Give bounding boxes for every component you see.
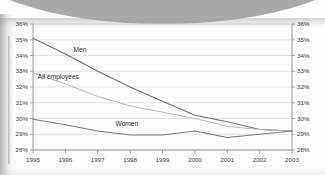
y-tick-label-right: 28% bbox=[297, 146, 310, 153]
y-tick-label-left: 33% bbox=[16, 67, 29, 74]
y-tick-label-left: 29% bbox=[16, 130, 29, 137]
y-tick-label-right: 36% bbox=[297, 20, 310, 27]
x-tick-label: 2001 bbox=[220, 156, 234, 163]
y-tick-label-right: 31% bbox=[297, 99, 310, 106]
y-axis-labels-right: 36%35%34%33%32%31%30%29%28% bbox=[297, 20, 310, 153]
x-tick-label: 2000 bbox=[188, 156, 202, 163]
chart-figure: 36%35%34%33%32%31%30%29%28% 36%35%34%33%… bbox=[0, 0, 325, 175]
gridlines-group bbox=[33, 24, 292, 150]
x-tick-label: 1995 bbox=[26, 156, 40, 163]
plot-area: 36%35%34%33%32%31%30%29%28% 36%35%34%33%… bbox=[0, 0, 325, 175]
series-line-men bbox=[33, 38, 292, 131]
series-lines-group bbox=[33, 38, 292, 137]
line-chart-svg: 36%35%34%33%32%31%30%29%28% 36%35%34%33%… bbox=[0, 0, 325, 175]
annotation-women: Women bbox=[116, 120, 139, 127]
series-annotations: MenAll employeesWomen bbox=[38, 46, 139, 127]
y-tick-label-right: 33% bbox=[297, 67, 310, 74]
y-tick-label-right: 29% bbox=[297, 130, 310, 137]
y-tick-label-right: 30% bbox=[297, 115, 310, 122]
y-tick-label-left: 36% bbox=[16, 20, 29, 27]
annotation-men: Men bbox=[73, 46, 86, 53]
y-tick-label-left: 35% bbox=[16, 36, 29, 43]
y-tick-label-left: 31% bbox=[16, 99, 29, 106]
x-tick-label: 1999 bbox=[156, 156, 170, 163]
x-tick-label: 1997 bbox=[91, 156, 105, 163]
y-axis-labels-left: 36%35%34%33%32%31%30%29%28% bbox=[16, 20, 29, 153]
y-tick-label-right: 35% bbox=[297, 36, 310, 43]
y-tick-label-left: 28% bbox=[16, 146, 29, 153]
x-tick-label: 1998 bbox=[123, 156, 137, 163]
x-tick-label: 1996 bbox=[58, 156, 72, 163]
y-tick-label-left: 32% bbox=[16, 83, 29, 90]
y-tick-label-right: 34% bbox=[297, 52, 310, 59]
y-tick-label-right: 32% bbox=[297, 83, 310, 90]
x-tick-label: 2002 bbox=[253, 156, 267, 163]
y-tick-label-left: 30% bbox=[16, 115, 29, 122]
series-line-all-employees bbox=[33, 73, 292, 131]
annotation-all-employees: All employees bbox=[38, 73, 80, 81]
x-tick-label: 2003 bbox=[285, 156, 299, 163]
y-tick-label-left: 34% bbox=[16, 52, 29, 59]
x-axis-labels: 199519961997199819992000200120022003 bbox=[26, 156, 299, 163]
